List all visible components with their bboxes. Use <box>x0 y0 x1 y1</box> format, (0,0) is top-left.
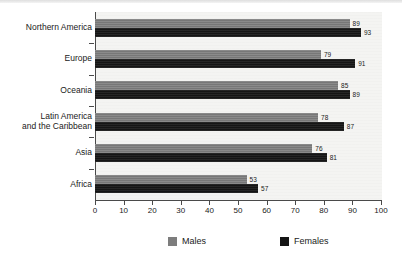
bar-value-label: 85 <box>341 81 348 90</box>
chart-legend: MalesFemales <box>0 234 402 250</box>
category-label: Northern America <box>6 23 92 33</box>
x-axis-tick-label: 60 <box>262 206 271 215</box>
x-axis-tick-label: 70 <box>291 206 300 215</box>
category-label-line: Asia <box>6 148 92 158</box>
y-axis-tick <box>89 137 94 138</box>
bar-females <box>95 184 258 193</box>
bar-males <box>95 81 338 90</box>
bar-chart-figure: 8993Northern America7991Europe8589Oceani… <box>0 0 402 263</box>
category-label: Asia <box>6 148 92 158</box>
x-axis-tick-label: 10 <box>119 206 128 215</box>
bar-value-label: 89 <box>353 19 360 28</box>
category-label: Africa <box>6 180 92 190</box>
bar-males <box>95 175 247 184</box>
bar-value-label: 89 <box>353 90 360 99</box>
category-label: Latin Americaand the Caribbean <box>6 112 92 131</box>
bar-males <box>95 144 312 153</box>
legend-item-females: Females <box>280 236 329 246</box>
x-axis-tick-label: 40 <box>205 206 214 215</box>
bar-value-label: 53 <box>250 175 257 184</box>
x-axis-tick <box>209 201 210 205</box>
x-axis-tick <box>381 201 382 205</box>
category-label-line: Northern America <box>6 23 92 33</box>
bar-males <box>95 113 318 122</box>
bar-males <box>95 19 350 28</box>
category-label-line: and the Caribbean <box>6 122 92 132</box>
x-axis-tick-label: 20 <box>148 206 157 215</box>
y-axis-tick <box>89 43 94 44</box>
y-axis-tick <box>89 169 94 170</box>
legend-label: Males <box>182 236 206 246</box>
page-scan-band <box>0 0 402 3</box>
legend-label: Females <box>294 236 329 246</box>
legend-swatch-icon <box>168 237 177 246</box>
x-axis-tick <box>295 201 296 205</box>
category-label: Oceania <box>6 86 92 96</box>
x-axis-tick <box>181 201 182 205</box>
category-label-line: Africa <box>6 180 92 190</box>
category-label-line: Europe <box>6 54 92 64</box>
bar-females <box>95 153 327 162</box>
x-axis-tick <box>95 201 96 205</box>
x-axis-tick <box>267 201 268 205</box>
x-axis-tick <box>152 201 153 205</box>
x-axis-tick-label: 30 <box>176 206 185 215</box>
bar-females <box>95 122 344 131</box>
bar-females <box>95 90 350 99</box>
x-axis-tick-label: 90 <box>348 206 357 215</box>
x-axis-tick <box>238 201 239 205</box>
x-axis-tick <box>352 201 353 205</box>
y-axis-tick <box>89 106 94 107</box>
x-axis-tick-label: 80 <box>319 206 328 215</box>
x-axis-tick <box>324 201 325 205</box>
y-axis-tick <box>89 75 94 76</box>
bar-value-label: 81 <box>330 153 337 162</box>
bar-value-label: 91 <box>358 59 365 68</box>
x-axis-tick-label: 0 <box>93 206 97 215</box>
plot-area <box>95 12 382 200</box>
bar-females <box>95 28 361 37</box>
bar-value-label: 76 <box>315 144 322 153</box>
x-axis-tick-label: 100 <box>374 206 387 215</box>
bar-males <box>95 50 321 59</box>
bar-value-label: 79 <box>324 50 331 59</box>
x-axis-tick <box>124 201 125 205</box>
bar-value-label: 93 <box>364 28 371 37</box>
legend-swatch-icon <box>280 237 289 246</box>
bar-value-label: 57 <box>261 184 268 193</box>
bar-value-label: 87 <box>347 122 354 131</box>
category-label: Europe <box>6 54 92 64</box>
category-label-line: Oceania <box>6 86 92 96</box>
legend-item-males: Males <box>168 236 206 246</box>
bar-females <box>95 59 355 68</box>
x-axis-tick-label: 50 <box>234 206 243 215</box>
bar-value-label: 78 <box>321 113 328 122</box>
